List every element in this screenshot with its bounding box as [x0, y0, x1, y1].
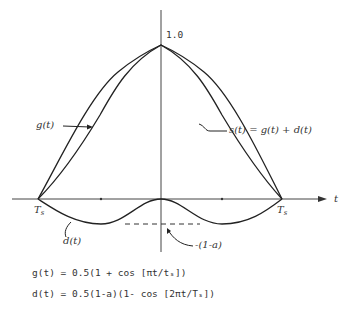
x-axis-arrow-icon — [318, 196, 327, 202]
left-endpoint-sub: s — [41, 209, 45, 217]
equation-d: d(t) = 0.5(1-a)(1- cos [2πt/Tₛ]) — [32, 289, 215, 299]
g-leader-arrow — [63, 126, 90, 127]
right-endpoint-symbol: T — [277, 204, 284, 215]
x-axis-label: t — [334, 194, 338, 204]
d-curve-label: d(t) — [63, 236, 81, 246]
g-curve-label: g(t) — [36, 120, 54, 130]
equation-g: g(t) = 0.5(1 + cos [πt/tₛ]) — [32, 268, 186, 278]
s-curve-label: s(t) = g(t) + d(t) — [229, 125, 312, 135]
offset-label: -(1-a) — [195, 240, 222, 250]
curve-s — [38, 45, 282, 199]
curve-g — [38, 45, 282, 199]
offset-leader-line — [168, 230, 193, 246]
left-endpoint-symbol: T — [34, 204, 41, 215]
curve-d — [38, 199, 282, 224]
left-endpoint-label: Ts — [34, 205, 44, 217]
right-endpoint-sub: s — [284, 209, 288, 217]
s-leader-line — [199, 124, 227, 131]
tick-mark — [221, 198, 223, 200]
tick-mark — [100, 198, 102, 200]
peak-label: 1.0 — [166, 30, 183, 40]
right-endpoint-label: Ts — [277, 205, 287, 217]
